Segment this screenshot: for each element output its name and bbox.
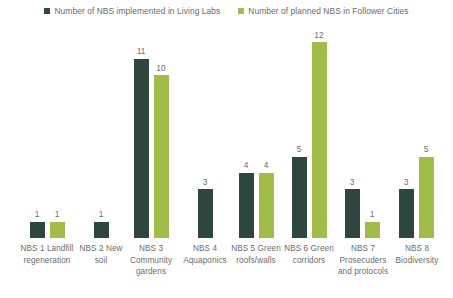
legend-label-planned: Number of planned NBS in Follower Cities <box>248 7 408 15</box>
x-label-nbs-8-line1: NBS 8 <box>388 243 446 255</box>
bar-group-nbs-4: 3 <box>178 30 232 238</box>
bar-value-nbs-7-implemented: 3 <box>350 178 355 186</box>
bar-group-nbs-5: 4 4 <box>229 30 283 238</box>
bar-group-nbs-2: 1 <box>74 30 128 238</box>
bar-rect <box>345 189 360 238</box>
bar-group-nbs-8: 3 5 <box>389 30 443 238</box>
bar-value-nbs-4-implemented: 3 <box>203 178 208 186</box>
legend-label-implemented: Number of NBS implemented in Living Labs <box>54 7 220 15</box>
x-label-nbs-7-line1: NBS 7 <box>332 243 394 255</box>
x-label-nbs-3-line3: gardens <box>122 266 180 278</box>
bar-group-nbs-6: 5 12 <box>282 30 336 238</box>
chart-legend: Number of NBS implemented in Living Labs… <box>0 7 453 15</box>
bar-nbs-1-planned[interactable]: 1 <box>50 30 65 238</box>
bar-group-nbs-3: 11 10 <box>124 30 178 238</box>
bar-rect <box>312 42 327 238</box>
bar-value-nbs-8-planned: 5 <box>424 145 429 153</box>
bar-rect <box>30 222 45 238</box>
bar-nbs-1-implemented[interactable]: 1 <box>30 30 45 238</box>
bar-nbs-2-implemented[interactable]: 1 <box>94 30 109 238</box>
bar-value-nbs-6-planned: 12 <box>314 31 323 39</box>
x-label-nbs-3: NBS 3 Community gardens <box>122 243 180 278</box>
bar-nbs-7-implemented[interactable]: 3 <box>345 30 360 238</box>
x-label-nbs-8: NBS 8 Biodiversity <box>388 243 446 266</box>
x-label-nbs-3-line1: NBS 3 <box>122 243 180 255</box>
bar-value-nbs-6-implemented: 5 <box>297 145 302 153</box>
bar-rect <box>419 157 434 239</box>
bar-value-nbs-1-implemented: 1 <box>35 210 40 218</box>
bar-value-nbs-8-implemented: 3 <box>404 178 409 186</box>
bar-group-nbs-7: 3 1 <box>335 30 389 238</box>
bar-nbs-6-implemented[interactable]: 5 <box>292 30 307 238</box>
bar-value-nbs-2-implemented: 1 <box>99 210 104 218</box>
plot-area: 1 1 1 11 <box>0 30 453 238</box>
bar-nbs-8-planned[interactable]: 5 <box>419 30 434 238</box>
bar-nbs-5-implemented[interactable]: 4 <box>239 30 254 238</box>
x-label-nbs-6: NBS 6 Green corridors <box>280 243 338 266</box>
bar-rect <box>259 173 274 238</box>
bar-rect <box>365 222 380 238</box>
x-label-nbs-8-line2: Biodiversity <box>388 255 446 267</box>
bar-nbs-3-planned[interactable]: 10 <box>154 30 169 238</box>
bar-rect <box>239 173 254 238</box>
bar-value-nbs-7-planned: 1 <box>370 210 375 218</box>
bar-value-nbs-3-implemented: 11 <box>137 47 146 55</box>
x-label-nbs-3-line2: Community <box>122 255 180 267</box>
x-label-nbs-7: NBS 7 Prosecuders and protocols <box>332 243 394 278</box>
bar-rect <box>94 222 109 238</box>
legend-swatch-planned-icon <box>238 8 244 14</box>
bar-value-nbs-5-implemented: 4 <box>244 161 249 169</box>
bar-chart: Number of NBS implemented in Living Labs… <box>0 0 453 298</box>
bar-rect <box>399 189 414 238</box>
legend-item-implemented: Number of NBS implemented in Living Labs <box>44 7 220 15</box>
x-label-nbs-5: NBS 5 Green roofs/walls <box>226 243 286 266</box>
x-label-nbs-5-line2: roofs/walls <box>226 255 286 267</box>
bar-nbs-7-planned[interactable]: 1 <box>365 30 380 238</box>
bar-group-nbs-1: 1 1 <box>20 30 74 238</box>
bar-rect <box>198 189 213 238</box>
x-label-nbs-6-line1: NBS 6 Green <box>280 243 338 255</box>
x-label-nbs-7-line3: and protocols <box>332 266 394 278</box>
bar-nbs-5-planned[interactable]: 4 <box>259 30 274 238</box>
bar-value-nbs-1-planned: 1 <box>55 210 60 218</box>
bar-nbs-8-implemented[interactable]: 3 <box>399 30 414 238</box>
bar-nbs-6-planned[interactable]: 12 <box>312 30 327 238</box>
legend-swatch-implemented-icon <box>44 8 50 14</box>
bar-rect <box>50 222 65 238</box>
bar-rect <box>292 157 307 239</box>
bar-rect <box>134 59 149 238</box>
bar-value-nbs-3-planned: 10 <box>156 64 165 72</box>
bar-value-nbs-5-planned: 4 <box>264 161 269 169</box>
bar-rect <box>154 75 169 238</box>
x-label-nbs-7-line2: Prosecuders <box>332 255 394 267</box>
x-label-nbs-5-line1: NBS 5 Green <box>226 243 286 255</box>
legend-item-planned: Number of planned NBS in Follower Cities <box>238 7 408 15</box>
x-axis-labels: NBS 1 Landfill regeneration NBS 2 New so… <box>0 243 453 298</box>
x-label-nbs-6-line2: corridors <box>280 255 338 267</box>
bar-nbs-4-implemented[interactable]: 3 <box>198 30 213 238</box>
bar-nbs-3-implemented[interactable]: 11 <box>134 30 149 238</box>
